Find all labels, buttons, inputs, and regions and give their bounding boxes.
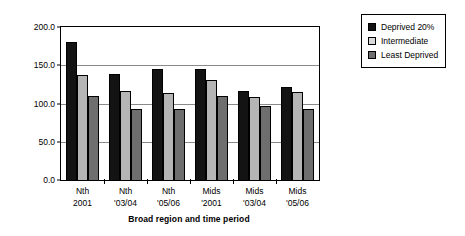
bar: [195, 69, 206, 180]
y-tick-label: 50.0: [38, 137, 55, 147]
legend-label: Intermediate: [381, 36, 428, 46]
bar-group: [104, 27, 147, 180]
legend-label: Deprived 20%: [381, 22, 434, 32]
x-tick-label-line: '03/04: [243, 198, 266, 210]
legend-swatch-icon: [368, 37, 376, 45]
bar: [206, 80, 217, 180]
bar: [152, 69, 163, 180]
x-tick-mark: [190, 179, 191, 184]
x-tick-label-line: Mids: [286, 186, 309, 198]
bars-layer: [61, 27, 319, 180]
bar: [174, 109, 185, 180]
bar: [281, 87, 292, 180]
x-tick-label-line: '03/04: [114, 198, 137, 210]
x-axis-title: Broad region and time period: [60, 214, 318, 224]
x-tick-label: Nth2001: [73, 186, 92, 209]
bar-group: [61, 27, 104, 180]
legend-item[interactable]: Intermediate: [368, 34, 438, 48]
legend-swatch-icon: [368, 51, 376, 59]
bar-group: [190, 27, 233, 180]
x-tick-label-line: '05/06: [157, 198, 180, 210]
bar: [303, 109, 314, 180]
x-tick-label: Mids'2001: [201, 186, 222, 209]
bar: [217, 96, 228, 180]
x-tick-mark: [147, 179, 148, 184]
x-tick-mark: [233, 179, 234, 184]
x-tick-label-line: Mids: [201, 186, 222, 198]
y-tick-label: 100.0: [34, 99, 55, 109]
bar: [249, 97, 260, 180]
x-tick-mark: [276, 179, 277, 184]
bar: [77, 75, 88, 180]
bar: [238, 91, 249, 181]
x-tick-label-line: Nth: [157, 186, 180, 198]
chart-legend: Deprived 20%IntermediateLeast Deprived: [361, 14, 446, 68]
x-tick-mark: [104, 179, 105, 184]
x-tick-label: Mids'03/04: [243, 186, 266, 209]
y-tick-label: 200.0: [34, 22, 55, 32]
bar: [292, 92, 303, 180]
x-tick-label: Nth'05/06: [157, 186, 180, 209]
x-tick-label: Nth'03/04: [114, 186, 137, 209]
x-tick-label-line: '2001: [201, 198, 222, 210]
legend-item[interactable]: Least Deprived: [368, 48, 438, 62]
bar: [66, 42, 77, 180]
bar: [109, 74, 120, 180]
legend-swatch-icon: [368, 23, 376, 31]
bar-chart-figure: Index score 0.050.0100.0150.0200.0 Nth20…: [0, 0, 465, 236]
bar: [120, 91, 131, 180]
x-tick-label-line: 2001: [73, 198, 92, 210]
bar-group: [276, 27, 319, 180]
y-tick-label: 150.0: [34, 60, 55, 70]
bar-group: [147, 27, 190, 180]
y-tick-label: 0.0: [43, 175, 55, 185]
legend-label: Least Deprived: [381, 50, 438, 60]
bar: [260, 106, 271, 180]
legend-item[interactable]: Deprived 20%: [368, 20, 438, 34]
x-tick-label-line: Nth: [73, 186, 92, 198]
x-tick-label: Mids'05/06: [286, 186, 309, 209]
x-tick-label-line: Nth: [114, 186, 137, 198]
x-tick-label-line: Mids: [243, 186, 266, 198]
plot-area: 0.050.0100.0150.0200.0 Nth2001Nth'03/04N…: [60, 26, 320, 181]
bar-group: [233, 27, 276, 180]
bar: [163, 93, 174, 180]
x-tick-label-line: '05/06: [286, 198, 309, 210]
bar: [88, 96, 99, 180]
bar: [131, 109, 142, 180]
